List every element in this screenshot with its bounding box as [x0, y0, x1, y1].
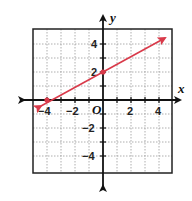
y-tick-label-4: 4	[91, 38, 98, 50]
point-x-intercept	[44, 97, 49, 102]
y-tick-label-neg4: −4	[82, 150, 95, 162]
x-tick-label-2: 2	[127, 105, 133, 117]
coordinate-plane: x y O −4 −2 2 4 4 2 −2 −4	[0, 0, 192, 201]
x-tick-label-neg2: −2	[66, 105, 79, 117]
origin-label: O	[92, 102, 102, 117]
x-tick-label-4: 4	[155, 105, 162, 117]
y-axis-label: y	[108, 10, 116, 25]
x-tick-label-neg4: −4	[38, 105, 51, 117]
x-axis-label: x	[177, 81, 185, 96]
y-tick-label-neg2: −2	[82, 122, 95, 134]
point-y-intercept	[100, 69, 105, 74]
